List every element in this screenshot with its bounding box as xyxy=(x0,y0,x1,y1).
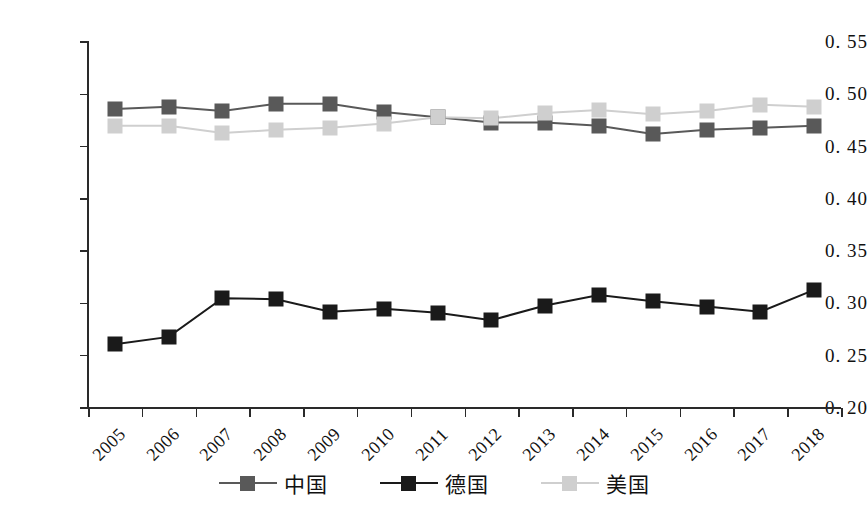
legend-marker xyxy=(240,476,255,491)
data-point-marker xyxy=(215,104,230,119)
data-point-marker xyxy=(323,96,338,111)
data-point-marker xyxy=(161,118,176,133)
legend-swatch-icon xyxy=(541,475,599,491)
x-axis-tick xyxy=(841,408,843,417)
x-axis-tick-label: 2015 xyxy=(626,424,668,466)
data-point-marker xyxy=(107,337,122,352)
data-point-marker xyxy=(699,122,714,137)
line-chart: 0. 200. 250. 300. 350. 400. 450. 500. 55… xyxy=(0,0,868,523)
data-point-marker xyxy=(753,304,768,319)
legend-swatch-icon xyxy=(380,475,438,491)
data-point-marker xyxy=(376,116,391,131)
data-point-marker xyxy=(161,329,176,344)
x-axis-tick-label: 2016 xyxy=(680,424,722,466)
data-point-marker xyxy=(807,282,822,297)
legend-label: 德国 xyxy=(445,468,489,498)
x-axis-tick xyxy=(787,408,789,417)
x-axis-tick xyxy=(142,408,144,417)
x-axis-tick xyxy=(572,408,574,417)
legend-item[interactable]: 德国 xyxy=(380,468,489,498)
data-point-marker xyxy=(753,97,768,112)
x-axis-tick xyxy=(249,408,251,417)
legend-item[interactable]: 中国 xyxy=(219,468,328,498)
data-point-marker xyxy=(699,299,714,314)
x-axis-tick-label: 2006 xyxy=(142,424,184,466)
legend-swatch-icon xyxy=(219,475,277,491)
legend-item[interactable]: 美国 xyxy=(541,468,650,498)
data-point-marker xyxy=(430,305,445,320)
x-axis-tick xyxy=(88,408,90,417)
x-axis-tick-label: 2012 xyxy=(465,424,507,466)
plot-area xyxy=(88,42,841,408)
legend-marker xyxy=(562,476,577,491)
data-point-marker xyxy=(269,122,284,137)
x-axis-tick-label: 2008 xyxy=(250,424,292,466)
data-point-marker xyxy=(538,298,553,313)
data-point-marker xyxy=(107,118,122,133)
data-point-marker xyxy=(323,120,338,135)
x-axis-tick xyxy=(626,408,628,417)
data-point-marker xyxy=(538,106,553,121)
data-point-marker xyxy=(269,96,284,111)
data-point-marker xyxy=(215,291,230,306)
chart-legend: 中国德国美国 xyxy=(0,468,868,498)
data-point-marker xyxy=(323,304,338,319)
data-point-marker xyxy=(107,101,122,116)
data-point-marker xyxy=(269,292,284,307)
data-point-marker xyxy=(430,110,445,125)
data-point-marker xyxy=(161,99,176,114)
data-point-marker xyxy=(699,104,714,119)
data-point-marker xyxy=(807,99,822,114)
x-axis-tick xyxy=(411,408,413,417)
data-point-marker xyxy=(484,111,499,126)
data-point-marker xyxy=(484,313,499,328)
x-axis-tick-label: 2007 xyxy=(196,424,238,466)
legend-label: 美国 xyxy=(606,468,650,498)
data-point-marker xyxy=(753,120,768,135)
x-axis-tick xyxy=(518,408,520,417)
x-axis-tick-label: 2005 xyxy=(88,424,130,466)
data-point-marker xyxy=(215,125,230,140)
x-axis-tick-label: 2013 xyxy=(519,424,561,466)
data-point-marker xyxy=(376,301,391,316)
x-axis-tick xyxy=(357,408,359,417)
legend-label: 中国 xyxy=(284,468,328,498)
x-axis-tick xyxy=(680,408,682,417)
data-point-marker xyxy=(807,118,822,133)
x-axis-tick-label: 2010 xyxy=(357,424,399,466)
x-axis-tick-label: 2017 xyxy=(734,424,776,466)
data-point-marker xyxy=(645,294,660,309)
x-axis-tick xyxy=(465,408,467,417)
data-point-marker xyxy=(591,118,606,133)
series-lines xyxy=(88,42,841,408)
data-point-marker xyxy=(645,107,660,122)
x-axis-tick-label: 2011 xyxy=(411,424,452,465)
x-axis-tick-label: 2009 xyxy=(304,424,346,466)
x-axis-tick xyxy=(733,408,735,417)
x-axis-tick-label: 2014 xyxy=(572,424,614,466)
legend-marker xyxy=(401,476,416,491)
data-point-marker xyxy=(591,102,606,117)
x-axis-tick-label: 2018 xyxy=(788,424,830,466)
data-point-marker xyxy=(645,127,660,142)
data-point-marker xyxy=(591,288,606,303)
x-axis-tick xyxy=(196,408,198,417)
x-axis-tick xyxy=(303,408,305,417)
